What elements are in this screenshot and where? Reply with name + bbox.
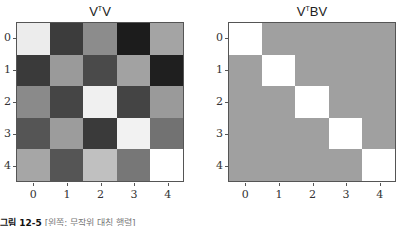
heatmap-cell (295, 149, 328, 181)
x-tick-label: 1 (63, 188, 70, 201)
heatmap-cell (262, 86, 295, 118)
y-tick-label: 3 (216, 127, 223, 140)
y-tick-label: 2 (4, 95, 11, 108)
y-tick-label: 1 (216, 63, 223, 76)
y-tick-label: 4 (216, 159, 223, 172)
heatmap-cell (117, 86, 150, 118)
heatmap-cell (229, 149, 262, 181)
heatmap-cell (262, 118, 295, 150)
heatmap-cell (295, 55, 328, 87)
heatmap-cell (50, 118, 83, 150)
heatmap-grid-vtv (16, 22, 184, 182)
heatmap-grid-vtbv (228, 22, 396, 182)
x-tick-label: 1 (275, 188, 282, 201)
heatmap-cell (17, 118, 50, 150)
heatmap-cell (329, 118, 362, 150)
heatmap-cell (17, 23, 50, 55)
heatmap-cell (150, 23, 183, 55)
heatmap-cell (150, 86, 183, 118)
heatmap-cell (262, 55, 295, 87)
heatmap-cell (83, 149, 116, 181)
heatmap-cell (362, 55, 395, 87)
heatmap-cell (17, 86, 50, 118)
heatmap-cell (295, 23, 328, 55)
x-tick-label: 4 (376, 188, 383, 201)
heatmap-cell (50, 86, 83, 118)
heatmap-cell (17, 149, 50, 181)
figure-caption: 그림 12-5 [왼쪽: 무작위 대칭 행렬] (0, 216, 135, 226)
caption-label: 그림 12-5 (0, 218, 42, 226)
x-tick-label: 0 (242, 188, 249, 201)
heatmap-cell (117, 149, 150, 181)
heatmap-cell (329, 55, 362, 87)
y-tick-label: 2 (216, 95, 223, 108)
heatmap-cell (150, 55, 183, 87)
heatmap-cell (50, 23, 83, 55)
x-tick-label: 3 (131, 188, 138, 201)
heatmap-cell (83, 23, 116, 55)
heatmap-cell (150, 118, 183, 150)
x-tick-label: 0 (30, 188, 37, 201)
heatmap-cell (83, 86, 116, 118)
heatmap-cell (117, 23, 150, 55)
heatmap-cell (229, 86, 262, 118)
heatmap-cell (295, 86, 328, 118)
heatmap-cell (329, 23, 362, 55)
heatmap-cell (50, 149, 83, 181)
heatmap-cell (229, 55, 262, 87)
heatmap-cell (362, 86, 395, 118)
x-tick-label: 3 (343, 188, 350, 201)
heatmap-cell (329, 149, 362, 181)
heatmap-cell (117, 55, 150, 87)
heatmap-cell (83, 118, 116, 150)
heatmap-cell (150, 149, 183, 181)
heatmap-cell (50, 55, 83, 87)
x-tick-label: 2 (97, 188, 104, 201)
heatmap-cell (362, 149, 395, 181)
heatmap-cell (229, 23, 262, 55)
heatmap-cell (362, 23, 395, 55)
y-tick-label: 0 (4, 31, 11, 44)
x-tick-label: 4 (164, 188, 171, 201)
heatmap-cell (229, 118, 262, 150)
chart-title-vtbv: VTBV (228, 4, 396, 19)
heatmap-cell (83, 55, 116, 87)
x-tick-label: 2 (309, 188, 316, 201)
heatmap-cell (329, 86, 362, 118)
heatmap-cell (362, 118, 395, 150)
chart-title-vtv: VTV (16, 4, 184, 19)
y-tick-label: 3 (4, 127, 11, 140)
y-tick-label: 0 (216, 31, 223, 44)
heatmap-cell (262, 149, 295, 181)
caption-text: [왼쪽: 무작위 대칭 행렬] (45, 218, 136, 226)
heatmap-cell (17, 55, 50, 87)
heatmap-cell (117, 118, 150, 150)
y-tick-label: 1 (4, 63, 11, 76)
heatmap-cell (262, 23, 295, 55)
y-tick-label: 4 (4, 159, 11, 172)
heatmap-cell (295, 118, 328, 150)
